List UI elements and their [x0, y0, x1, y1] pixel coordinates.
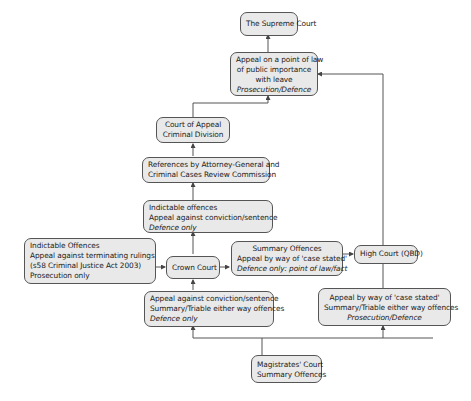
node-text-italic: Prosecution/Defence	[236, 85, 312, 95]
node-text: Magistrates' Court	[257, 360, 316, 370]
node-text: Indictable Offences	[30, 241, 150, 251]
node-text: Court of Appeal	[162, 120, 224, 130]
node-text: Summary Offences	[237, 244, 337, 254]
node-references: References by Attorney-General and Crimi…	[142, 157, 270, 183]
node-text: Summary/Triable either way offences	[150, 304, 268, 314]
node-text: with leave	[236, 75, 312, 85]
node-text: References by Attorney-General and	[148, 160, 264, 170]
node-case-stated-either-way: Appeal by way of 'case stated' Summary/T…	[318, 288, 451, 326]
node-summary-case-stated: Summary Offences Appeal by way of 'case …	[231, 241, 343, 276]
node-text-italic: Defence only	[150, 314, 268, 324]
node-text: Appeal against conviction/sentence	[149, 213, 267, 223]
node-text: Summary Offences	[257, 370, 316, 380]
node-text: Appeal on a point of law	[236, 55, 312, 65]
node-text-italic: Prosecution/Defence	[324, 313, 445, 323]
node-text: Criminal Division	[162, 130, 224, 140]
node-text-italic: Defence only: point of law/fact	[237, 264, 337, 274]
node-court-of-appeal: Court of Appeal Criminal Division	[156, 117, 230, 143]
node-magistrates-court: Magistrates' Court Summary Offences	[251, 355, 322, 383]
node-indictable-appeal: Indictable offences Appeal against convi…	[143, 200, 273, 233]
node-point-of-law: Appeal on a point of law of public impor…	[230, 52, 318, 96]
node-crown-court: Crown Court	[166, 256, 220, 279]
node-text: Crown Court	[172, 263, 214, 273]
node-terminating-rulings: Indictable Offences Appeal against termi…	[24, 238, 156, 284]
node-text: Indictable offences	[149, 203, 267, 213]
node-high-court: High Court (QBD)	[354, 245, 418, 264]
node-text: The Supreme Court	[246, 19, 292, 29]
node-text: of public importance	[236, 65, 312, 75]
node-text: Appeal against terminating rulings	[30, 251, 150, 261]
node-text: Appeal against conviction/sentence	[150, 294, 268, 304]
node-text: Summary/Triable either way offences	[324, 303, 445, 313]
node-text-italic: Defence only	[149, 223, 267, 233]
node-text: Appeal by way of 'case stated'	[237, 254, 337, 264]
node-supreme-court: The Supreme Court	[240, 12, 298, 36]
node-text: High Court (QBD)	[360, 249, 412, 259]
node-text: Prosecution only	[30, 271, 150, 281]
node-text: Appeal by way of 'case stated'	[324, 293, 445, 303]
node-conviction-sentence: Appeal against conviction/sentence Summa…	[144, 291, 274, 327]
node-text: (s58 Criminal Justice Act 2003)	[30, 261, 150, 271]
node-text: Criminal Cases Review Commission	[148, 170, 264, 180]
